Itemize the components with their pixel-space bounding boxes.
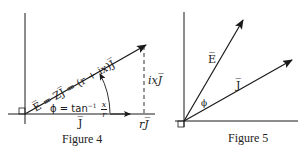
phi-eq-fraction: x r: [101, 100, 108, 119]
fig4-ix-component-label: ixJ̅: [148, 75, 162, 86]
figure-4-caption: Figure 4: [62, 132, 102, 147]
fig5-e-vector: [184, 20, 243, 121]
phi-eq-numerator: x: [101, 100, 108, 110]
fig5-j-label: J̅: [236, 80, 240, 91]
fig4-j-label: J̅: [78, 118, 82, 129]
figure-5-drawing: [175, 12, 298, 127]
fig4-r-component-label: rJ̅: [139, 119, 149, 130]
fig4-right-angle-marker: [19, 108, 25, 114]
figure-5-caption: Figure 5: [228, 131, 268, 146]
fig5-phi-label: ϕ: [201, 99, 207, 108]
fig5-e-label: E̅: [208, 54, 216, 65]
phi-eq-prefix: ϕ = tan: [50, 103, 88, 114]
phi-eq-exponent: −1: [88, 102, 97, 109]
phi-eq-denominator: r: [101, 110, 108, 119]
fig5-right-angle-marker: [178, 121, 184, 127]
